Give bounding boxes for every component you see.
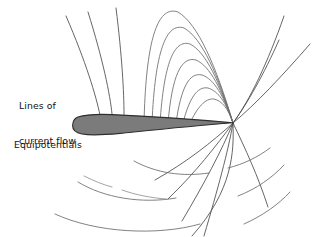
- current-flow-line: [182, 123, 233, 221]
- equipotential-arc: [55, 214, 200, 231]
- airfoil-body: [73, 114, 233, 134]
- equipotential-arc-segment: [84, 176, 112, 187]
- current-flow-line: [233, 16, 284, 123]
- equipotential-lines-lower: [55, 148, 290, 231]
- equipotential-arc: [238, 165, 284, 196]
- current-flow-line: [88, 12, 112, 114]
- current-flow-line: [192, 123, 233, 236]
- equipotential-arc: [152, 27, 233, 123]
- current-flow-line: [204, 123, 233, 236]
- equipotential-arc: [78, 182, 176, 200]
- current-flow-line: [116, 8, 124, 115]
- label-lines-of-current-flow: Lines of current flow: [19, 77, 76, 170]
- equipotential-arc-segment: [122, 190, 166, 199]
- figure-container: Lines of current flow Equipotentials: [0, 0, 329, 237]
- label-equipotentials: Equipotentials: [14, 139, 82, 151]
- equipotential-arc: [244, 192, 290, 224]
- equipotential-arc: [183, 88, 233, 123]
- label-current-flow-line1: Lines of: [19, 100, 76, 112]
- equipotential-lines-upper: [144, 11, 233, 123]
- current-flow-line: [233, 40, 279, 123]
